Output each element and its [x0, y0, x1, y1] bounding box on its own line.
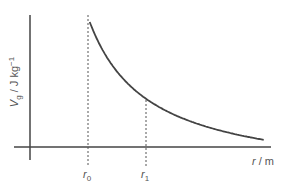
r1-label: r1 — [141, 168, 150, 183]
y-axis-label: Vg / J kg−1 — [7, 56, 23, 107]
r0-label: r0 — [83, 168, 92, 183]
chart: r0r1 Vg / J kg−1 r / m — [0, 0, 282, 186]
x-axis-label: r / m — [252, 155, 274, 167]
potential-curve — [90, 22, 264, 140]
